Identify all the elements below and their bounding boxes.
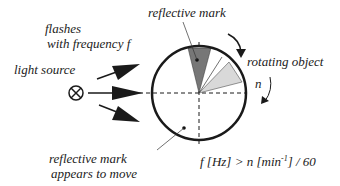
flashes-label-line1: flashes [45,21,81,36]
rotating-object-label: rotating object [247,54,324,69]
rotation-arrowhead [236,49,246,58]
speed-arrow-icon [265,77,271,101]
stroboscope-diagram: reflective mark flashes with frequency f… [0,0,340,186]
light-source-icon [69,86,83,100]
flash-arrows-icon [88,64,143,122]
reflective-mark-label: reflective mark [148,5,226,20]
frequency-formula: f [Hz] > n [min-1] / 60 [200,154,316,169]
moved-mark-label-line1: reflective mark [49,151,127,166]
flashes-label-line2: with frequency f [47,36,133,51]
light-source-label: light source [14,62,75,77]
speed-symbol-label: n [255,76,262,91]
moved-mark-label-line2: appears to move [51,166,137,181]
